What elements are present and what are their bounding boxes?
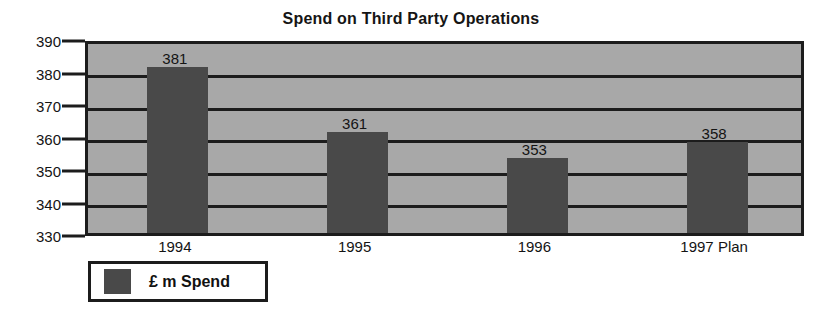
x-axis-tick-label: 1994 [158,238,191,255]
y-axis-tick-label: 390 [36,33,61,50]
y-axis-tick-mark [62,40,85,43]
x-axis-tick-label: 1995 [338,238,371,255]
bar-chart: Spend on Third Party Operations 39038037… [0,0,822,318]
x-axis-tick-label: 1997 Plan [680,238,748,255]
plot-inner [88,44,801,233]
y-axis-tick-label: 350 [36,163,61,180]
y-axis-tick-mark [62,202,85,205]
y-axis-tick-label: 340 [36,195,61,212]
x-axis: 1994199519961997 Plan [0,238,822,262]
bar-value-label: 353 [522,141,547,158]
bar-value-label: 381 [162,50,187,67]
legend-color-swatch [104,269,131,294]
bar [327,132,388,233]
y-axis: 390380370360350340330 [0,0,85,318]
y-axis-tick-label: 360 [36,130,61,147]
y-axis-tick-mark [62,137,85,140]
bar [687,142,748,233]
bar-value-label: 361 [342,115,367,132]
y-axis-tick-mark [62,105,85,108]
bar [147,67,208,233]
y-axis-tick-label: 380 [36,65,61,82]
bar-value-label: 358 [702,125,727,142]
x-axis-tick-label: 1996 [518,238,551,255]
legend-label: £ m Spend [149,273,230,291]
y-axis-tick-label: 370 [36,98,61,115]
y-axis-tick-mark [62,170,85,173]
y-axis-tick-mark [62,72,85,75]
chart-title: Spend on Third Party Operations [0,10,822,28]
plot-area [85,41,804,236]
bar [507,158,568,233]
chart-legend: £ m Spend [88,261,268,302]
